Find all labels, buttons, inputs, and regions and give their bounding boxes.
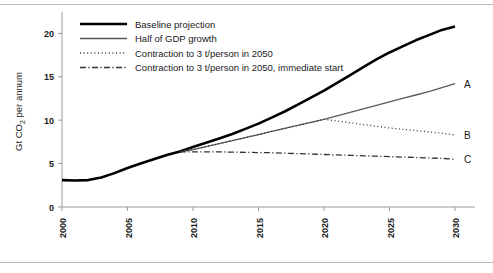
y-tick-label: 5	[49, 159, 54, 169]
y-axis-title-part: per annum	[13, 72, 24, 120]
x-tick-label: 2030	[451, 218, 461, 238]
legend-item-1[interactable]: Baseline projection	[80, 19, 215, 30]
legend-item-2[interactable]: Half of GDP growth	[80, 33, 217, 44]
x-tick-label: 2010	[189, 218, 199, 238]
legend-item-3[interactable]: Contraction to 3 t/person in 2050	[80, 48, 273, 59]
y-axis-title-part: Gt CO	[13, 124, 24, 151]
legend-label-3: Contraction to 3 t/person in 2050	[135, 48, 273, 59]
x-tick-label: 2000	[58, 218, 68, 238]
y-tick-label: 15	[44, 72, 54, 82]
legend-label-4: Contraction to 3 t/person in 2050, immed…	[135, 62, 343, 73]
end-label-B: B	[464, 130, 471, 141]
legend-label-2: Half of GDP growth	[135, 33, 217, 44]
x-tick-label: 2020	[320, 218, 330, 238]
y-tick-label: 0	[49, 203, 54, 213]
y-tick-label: 20	[44, 29, 54, 39]
x-tick-label: 2015	[255, 218, 265, 238]
end-label-A: A	[464, 79, 471, 90]
y-tick-label: 10	[44, 116, 54, 126]
x-tick-label: 2025	[386, 218, 396, 238]
figure-container: 051015202000200520102015202020252030Gt C…	[0, 0, 493, 273]
y-axis-title: Gt CO2 per annum	[13, 72, 26, 151]
line-chart: 051015202000200520102015202020252030Gt C…	[0, 0, 493, 273]
legend-item-4[interactable]: Contraction to 3 t/person in 2050, immed…	[80, 62, 343, 73]
end-label-C: C	[464, 154, 471, 165]
y-axis-title-text: Gt CO2 per annum	[13, 72, 26, 151]
series-line-3	[180, 119, 455, 152]
legend-label-1: Baseline projection	[135, 19, 215, 30]
series-line-4	[180, 152, 455, 159]
x-tick-label: 2005	[124, 218, 134, 238]
